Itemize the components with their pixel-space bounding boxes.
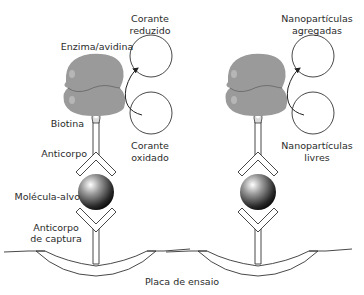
- label-reduced-dye-1: Corante: [120, 13, 180, 25]
- label-aggregated-nanoparticles-1: Nanopartículas: [272, 13, 362, 25]
- label-reduced-dye-2: reduzido: [120, 25, 180, 37]
- label-free-nanoparticles-1: Nanopartículas: [272, 140, 362, 152]
- label-target-molecule: Molécula-alvo: [4, 191, 80, 203]
- label-oxidized-dye-2: oxidado: [120, 152, 180, 164]
- label-aggregated-nanoparticles-2: agregadas: [272, 25, 362, 37]
- label-assay-plate: Placa de ensaio: [132, 276, 232, 288]
- elisa-diagram: Enzima/avidina Biotina Anticorpo Molécul…: [0, 0, 364, 295]
- label-biotin: Biotina: [40, 118, 84, 130]
- label-oxidized-dye-1: Corante: [120, 140, 180, 152]
- label-capture-antibody-2: de captura: [26, 233, 86, 245]
- label-free-nanoparticles-2: livres: [272, 152, 362, 164]
- label-enzyme-avidin: Enzima/avidina: [57, 41, 137, 53]
- label-antibody: Anticorpo: [25, 148, 87, 160]
